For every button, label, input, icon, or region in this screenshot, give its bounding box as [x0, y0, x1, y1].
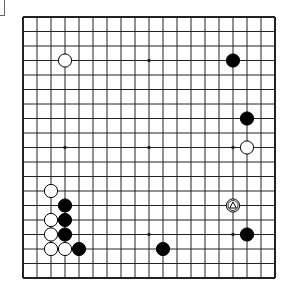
star-point [231, 233, 235, 237]
white-stone[interactable] [44, 184, 57, 197]
star-point [63, 146, 67, 150]
white-stone[interactable] [44, 213, 57, 226]
star-point [147, 59, 151, 63]
star-point [231, 146, 235, 150]
black-stone[interactable] [58, 228, 71, 241]
black-stone[interactable] [72, 242, 85, 255]
white-stone[interactable] [58, 54, 71, 67]
white-stone[interactable] [44, 242, 57, 255]
black-stone[interactable] [226, 54, 239, 67]
black-stone[interactable] [58, 199, 71, 212]
white-stone[interactable] [44, 228, 57, 241]
black-stone[interactable] [156, 242, 169, 255]
black-stone[interactable] [240, 112, 253, 125]
go-board[interactable] [0, 0, 293, 297]
black-stone[interactable] [240, 228, 253, 241]
star-point [147, 233, 151, 237]
white-stone[interactable] [58, 242, 71, 255]
white-stone[interactable] [240, 141, 253, 154]
black-stone[interactable] [58, 213, 71, 226]
star-point [147, 146, 151, 150]
